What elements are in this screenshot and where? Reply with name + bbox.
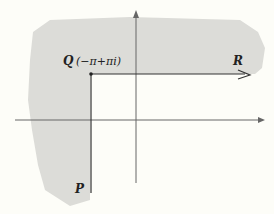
label-r: R bbox=[233, 54, 243, 68]
diagram-canvas: Q (−π+πi) R P bbox=[0, 0, 274, 214]
label-p: P bbox=[75, 182, 84, 196]
imaginary-axis-arrow-icon bbox=[133, 10, 139, 18]
label-q: Q bbox=[63, 54, 73, 68]
shaded-region bbox=[28, 17, 265, 206]
label-q-coordinate: (−π+πi) bbox=[76, 55, 121, 68]
diagram-svg bbox=[0, 0, 274, 214]
real-axis-arrow-icon bbox=[258, 117, 265, 123]
point-q-dot bbox=[89, 72, 93, 76]
